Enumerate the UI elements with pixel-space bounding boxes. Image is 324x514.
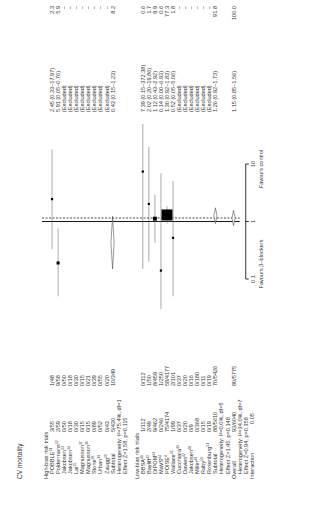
reference-superscript: 48 [188,446,192,450]
reference-superscript: 32 [55,440,59,444]
reference-superscript: 46 [176,445,180,449]
forest-plot-rotated: CV mortalityHigh-bias risk trialsPOBBLE3… [0,0,324,514]
weight-percent: 100.0 [231,6,237,20]
control-events: 70/5426 [212,366,218,386]
control-events: 80/5775 [231,366,237,386]
reference-superscript: 47 [182,453,186,457]
x-axis-label-favours-beta-blockers: Favours β–blockers [258,239,264,288]
reference-superscript: 35 [73,463,77,467]
odds-ratio-ci: 1.15 (0.85–1.56) [231,71,237,112]
reference-superscript: 39 [97,455,101,459]
reference-superscript: 44 [158,455,162,459]
weight-percent: 8.2 [110,6,116,14]
reference-superscript: 41 [140,455,144,459]
control-events: 10/349 [110,369,116,386]
x-axis-label-favours-control: Favours control [258,150,264,189]
reference-superscript: 34 [67,446,71,450]
row-label-note: Effect Z=1.58, p=0.115 [122,418,128,474]
study-estimate-square [51,198,53,200]
study-estimate-square [162,209,173,220]
reference-superscript: 33 [61,446,65,450]
study-estimate-square [172,237,174,239]
beta-blocker-events: 0.05 [249,413,255,424]
odds-ratio-ci: 1.26 (0.92–1.73) [212,71,218,112]
reference-superscript: 31 [49,448,53,452]
chart-title: CV mortality [16,443,24,479]
study-estimate-square [142,170,144,172]
forest-plot: CV mortalityHigh-bias risk trialsPOBBLE3… [0,0,324,514]
reference-superscript: 4 [164,455,168,457]
x-axis-tick-label: 1 [250,220,256,223]
reference-superscript: 37 [79,441,83,445]
row-label-interaction: Interaction [249,453,255,479]
reference-superscript: 36 [85,441,89,445]
reference-superscript: 50 [200,457,204,461]
reference-superscript: 40 [104,454,108,458]
reference-superscript: 43 [152,452,156,456]
weight-percent: 91.8 [212,6,218,17]
odds-ratio-ci: 0.43 (0.15–1.23) [110,71,116,112]
x-axis-tick-label: 0.1 [250,275,256,283]
reference-superscript: 42 [146,455,150,459]
study-estimate-square [148,203,150,205]
study-estimate-square [153,217,157,221]
study-estimate-square [160,269,162,271]
study-estimate-square [57,261,60,264]
pooled-estimate-diamond [232,210,235,225]
reference-superscript: 49 [194,457,198,461]
x-axis-tick-label: 10 [250,161,256,167]
reference-superscript: 38 [91,455,95,459]
reference-superscript: 45 [170,450,174,454]
pooled-estimate-diamond [111,216,114,269]
reference-superscript: 51 [206,443,210,447]
